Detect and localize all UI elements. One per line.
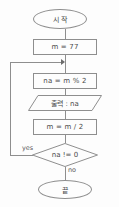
edge-yes-vertical xyxy=(10,62,11,155)
node-mod-label: na = m % 2 xyxy=(43,77,86,85)
node-output: 출력 : na xyxy=(28,95,102,111)
edge-yes-horizontal-upper xyxy=(10,62,62,63)
edge-init-to-mod xyxy=(65,55,66,73)
flowchart-diagram: 시 작 m = 77 na = m % 2 출력 : na m = m / 2 … xyxy=(0,0,119,207)
node-mod: na = m % 2 xyxy=(33,73,97,89)
node-start: 시 작 xyxy=(33,9,87,29)
node-output-label: 출력 : na xyxy=(28,95,102,111)
node-divide: m = m / 2 xyxy=(33,119,97,135)
edge-yes-arrowhead xyxy=(61,59,65,65)
edge-start-to-init xyxy=(65,29,66,39)
edge-label-no: no xyxy=(68,166,76,174)
node-end-label: 끝 xyxy=(62,185,68,195)
node-init: m = 77 xyxy=(33,39,97,55)
node-decision: na != 0 xyxy=(32,143,98,167)
node-decision-label: na != 0 xyxy=(32,143,98,167)
node-divide-label: m = m / 2 xyxy=(46,123,83,131)
node-end: 끝 xyxy=(38,180,92,199)
node-init-label: m = 77 xyxy=(51,43,78,51)
edge-no-vertical xyxy=(65,167,66,180)
edge-yes-horizontal-lower xyxy=(10,155,33,156)
node-start-label: 시 작 xyxy=(53,14,68,24)
edge-output-to-divide xyxy=(65,111,66,119)
edge-divide-to-decision xyxy=(65,135,66,143)
edge-label-yes: yes xyxy=(22,144,33,152)
